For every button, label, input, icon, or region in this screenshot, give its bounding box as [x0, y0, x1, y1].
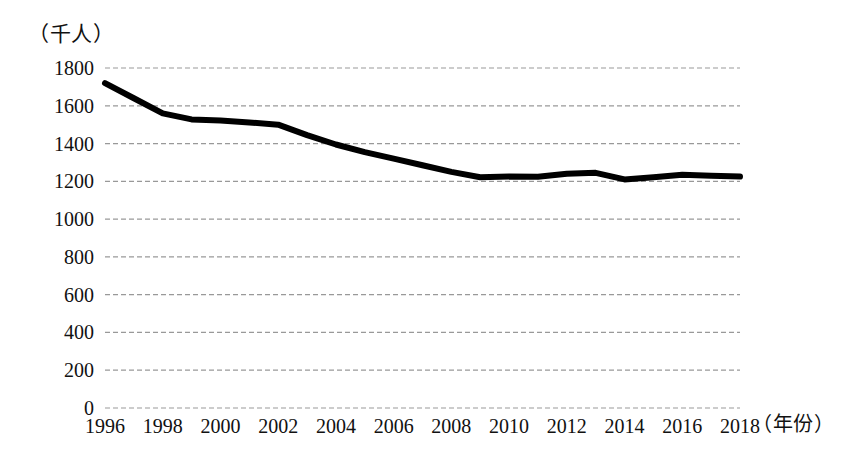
y-axis-tick-label: 1800	[30, 58, 94, 78]
y-axis-tick-labels: 180016001400120010008006004002000	[22, 68, 94, 408]
data-series-line	[105, 83, 740, 179]
x-axis-tick-label: 2000	[200, 416, 240, 436]
y-axis-tick-label: 800	[30, 247, 94, 267]
y-axis-tick-label: 400	[30, 322, 94, 342]
chart-canvas	[105, 68, 740, 408]
x-axis-tick-label: 2004	[316, 416, 356, 436]
x-axis-tick-label: 2008	[431, 416, 471, 436]
y-axis-tick-label: 1600	[30, 96, 94, 116]
y-axis-tick-label: 200	[30, 360, 94, 380]
x-axis-tick-label: 2010	[489, 416, 529, 436]
y-axis-tick-label: 1200	[30, 171, 94, 191]
x-axis-tick-label: 1996	[85, 416, 125, 436]
x-axis-title: （年份）	[752, 414, 834, 434]
chart-screenshot: （千人） 180016001400120010008006004002000 1…	[0, 0, 851, 469]
x-axis-tick-labels: 1996199820002002200420062008201020122014…	[105, 416, 740, 446]
x-axis-tick-label: 2012	[547, 416, 587, 436]
plot-area	[105, 68, 740, 408]
x-axis-tick-label: 2002	[258, 416, 298, 436]
y-axis-tick-label: 600	[30, 285, 94, 305]
y-axis-unit-label: （千人）	[28, 24, 114, 45]
y-axis-tick-label: 1400	[30, 134, 94, 154]
x-axis-tick-label: 2014	[605, 416, 645, 436]
y-axis-tick-label: 1000	[30, 209, 94, 229]
x-axis-tick-label: 2006	[374, 416, 414, 436]
x-axis-tick-label: 1998	[143, 416, 183, 436]
x-axis-tick-label: 2016	[662, 416, 702, 436]
